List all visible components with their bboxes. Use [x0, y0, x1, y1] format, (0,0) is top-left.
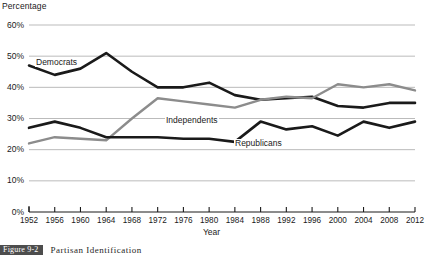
figure-caption-title: Partisan Identification — [51, 245, 142, 255]
x-tick-label: 1968 — [119, 216, 145, 225]
x-tick-label: 1980 — [196, 216, 222, 225]
x-tick-label: 1988 — [248, 216, 274, 225]
figure-caption: Figure 9-2 Partisan Identification — [0, 245, 423, 255]
series-label-independents: Independents — [165, 116, 219, 125]
x-axis-title: Year — [0, 227, 423, 237]
data-series-group — [29, 53, 415, 143]
figure-number-badge: Figure 9-2 — [0, 245, 43, 255]
gridlines — [29, 25, 415, 181]
x-tick-label: 2004 — [351, 216, 377, 225]
x-tick-label: 2012 — [402, 216, 428, 225]
x-axis-ticks — [29, 207, 415, 212]
y-tick-label: 40% — [0, 83, 24, 92]
x-tick-label: 1984 — [222, 216, 248, 225]
x-tick-label: 2000 — [325, 216, 351, 225]
y-tick-label: 30% — [0, 114, 24, 123]
y-tick-label: 50% — [0, 52, 24, 61]
x-tick-label: 2008 — [376, 216, 402, 225]
x-tick-label: 1956 — [42, 216, 68, 225]
x-tick-label: 1976 — [170, 216, 196, 225]
axis-lines — [29, 206, 415, 212]
x-tick-label: 1972 — [145, 216, 171, 225]
x-tick-label: 1952 — [16, 216, 42, 225]
x-tick-label: 1996 — [299, 216, 325, 225]
series-label-republicans: Republicans — [234, 139, 283, 148]
y-tick-label: 20% — [0, 145, 24, 154]
y-tick-label: 10% — [0, 176, 24, 185]
x-tick-label: 1992 — [273, 216, 299, 225]
x-tick-label: 1960 — [67, 216, 93, 225]
y-tick-label: 60% — [0, 21, 24, 30]
x-tick-label: 1964 — [93, 216, 119, 225]
series-label-democrats: Democrats — [35, 58, 78, 67]
